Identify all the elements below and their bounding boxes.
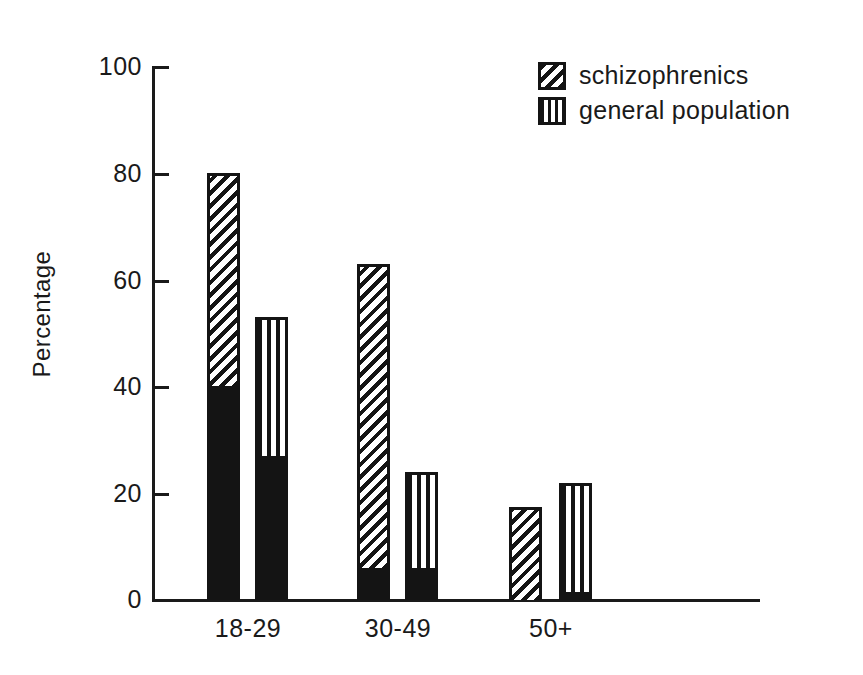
legend-item-schizophrenics: schizophrenics bbox=[538, 58, 790, 93]
legend-item-general-population: general population bbox=[538, 93, 790, 128]
bar-segment-solid bbox=[562, 592, 589, 597]
y-tick-label-80: 80 bbox=[72, 159, 142, 188]
x-axis-line bbox=[152, 599, 760, 602]
x-tick-label-18-29: 18-29 bbox=[178, 614, 318, 643]
bar-segment-patterned bbox=[360, 267, 387, 568]
y-tick-20 bbox=[155, 493, 169, 496]
vertical-stripe-swatch-icon bbox=[538, 97, 566, 125]
y-tick-label-100: 100 bbox=[72, 52, 142, 81]
y-axis-title: Percentage bbox=[28, 219, 56, 409]
y-tick-label-0: 0 bbox=[72, 585, 142, 614]
x-tick-label-30-49: 30-49 bbox=[328, 614, 468, 643]
y-tick-label-20: 20 bbox=[72, 479, 142, 508]
bar-segment-solid bbox=[360, 568, 387, 597]
legend-label-general-population: general population bbox=[579, 96, 790, 125]
bar-segment-solid bbox=[408, 568, 435, 597]
bar-general-population-18-29 bbox=[255, 317, 288, 600]
bar-segment-patterned bbox=[512, 510, 539, 600]
diagonal-hatch-swatch-icon bbox=[538, 62, 566, 90]
bar-schizophrenics-50-plus bbox=[509, 507, 542, 600]
bar-chart-figure: 100 80 60 40 20 0 Percentage 18-29 30-49… bbox=[0, 0, 863, 675]
y-tick-80 bbox=[155, 173, 169, 176]
bar-general-population-50-plus bbox=[559, 483, 592, 600]
bar-schizophrenics-18-29 bbox=[207, 173, 240, 600]
bar-segment-patterned bbox=[562, 486, 589, 592]
y-tick-100 bbox=[155, 66, 169, 69]
bar-segment-patterned bbox=[408, 475, 435, 568]
y-tick-40 bbox=[155, 386, 169, 389]
bar-segment-solid bbox=[210, 386, 237, 597]
legend-label-schizophrenics: schizophrenics bbox=[579, 61, 749, 90]
bar-general-population-30-49 bbox=[405, 472, 438, 600]
legend: schizophrenics general population bbox=[538, 58, 790, 128]
bar-schizophrenics-30-49 bbox=[357, 264, 390, 600]
y-axis-line bbox=[152, 66, 155, 602]
y-tick-label-60: 60 bbox=[72, 266, 142, 295]
x-tick-label-50-plus: 50+ bbox=[481, 614, 621, 643]
bar-segment-patterned bbox=[258, 320, 285, 456]
y-tick-60 bbox=[155, 280, 169, 283]
bar-segment-solid bbox=[258, 456, 285, 597]
bar-segment-patterned bbox=[210, 176, 237, 387]
y-tick-0 bbox=[155, 599, 169, 602]
y-tick-label-40: 40 bbox=[72, 372, 142, 401]
